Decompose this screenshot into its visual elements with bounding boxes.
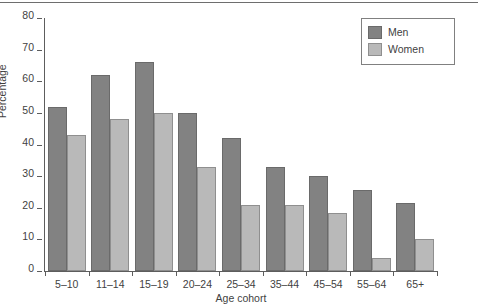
legend-item-women[interactable]: Women bbox=[368, 41, 448, 58]
x-tick-mark bbox=[437, 271, 438, 276]
y-tick-label: 10 bbox=[22, 231, 34, 242]
y-tick-mark bbox=[37, 208, 42, 209]
x-tick-label: 45–54 bbox=[306, 279, 350, 290]
y-tick-label: 0 bbox=[28, 263, 34, 274]
bar-men[interactable] bbox=[266, 167, 285, 271]
x-axis-title: Age cohort bbox=[45, 292, 437, 304]
y-tick-label: 60 bbox=[22, 73, 34, 84]
legend-swatch-women-icon bbox=[368, 43, 382, 56]
bar-group bbox=[48, 18, 86, 271]
y-tick-mark bbox=[37, 18, 42, 19]
y-tick-label: 20 bbox=[22, 200, 34, 211]
y-tick-mark bbox=[37, 81, 42, 82]
bar-women[interactable] bbox=[67, 135, 86, 271]
x-tick-mark bbox=[263, 271, 264, 276]
bar-group bbox=[266, 18, 304, 271]
bar-women[interactable] bbox=[241, 205, 260, 271]
y-tick-mark bbox=[37, 271, 42, 272]
x-tick-mark bbox=[350, 271, 351, 276]
bar-women[interactable] bbox=[415, 239, 434, 271]
y-axis-title: Percentage bbox=[0, 18, 8, 118]
bar-men[interactable] bbox=[178, 113, 197, 271]
x-tick-label: 15–19 bbox=[132, 279, 176, 290]
bar-men[interactable] bbox=[396, 203, 415, 271]
x-tick-mark bbox=[45, 271, 46, 276]
y-tick-label: 70 bbox=[22, 42, 34, 53]
x-tick-mark bbox=[393, 271, 394, 276]
x-tick-mark bbox=[219, 271, 220, 276]
x-tick-label: 35–44 bbox=[263, 279, 307, 290]
y-tick-label: 50 bbox=[22, 105, 34, 116]
bar-men[interactable] bbox=[222, 138, 241, 271]
bar-women[interactable] bbox=[154, 113, 173, 271]
bar-women[interactable] bbox=[110, 119, 129, 271]
x-axis-line bbox=[45, 271, 438, 272]
bar-women[interactable] bbox=[372, 258, 391, 271]
bar-men[interactable] bbox=[353, 190, 372, 271]
y-tick-label: 40 bbox=[22, 137, 34, 148]
bar-group bbox=[222, 18, 260, 271]
bar-men[interactable] bbox=[48, 107, 67, 271]
x-tick-label: 11–14 bbox=[89, 279, 133, 290]
x-tick-label: 20–24 bbox=[176, 279, 220, 290]
y-tick-mark bbox=[37, 239, 42, 240]
x-tick-label: 55–64 bbox=[350, 279, 394, 290]
legend-item-men[interactable]: Men bbox=[368, 24, 448, 41]
legend: Men Women bbox=[361, 18, 455, 65]
y-tick-label: 30 bbox=[22, 168, 34, 179]
legend-label-men: Men bbox=[388, 27, 408, 38]
bar-women[interactable] bbox=[328, 213, 347, 272]
bar-men[interactable] bbox=[309, 176, 328, 271]
bar-men[interactable] bbox=[91, 75, 110, 271]
y-tick-mark bbox=[37, 176, 42, 177]
y-tick-mark bbox=[37, 145, 42, 146]
bar-group bbox=[135, 18, 173, 271]
x-tick-mark bbox=[306, 271, 307, 276]
y-tick-label: 80 bbox=[22, 10, 34, 21]
bar-women[interactable] bbox=[197, 167, 216, 271]
bar-group bbox=[178, 18, 216, 271]
top-divider bbox=[0, 2, 478, 3]
bar-men[interactable] bbox=[135, 62, 154, 271]
y-tick-mark bbox=[37, 113, 42, 114]
x-tick-label: 25–34 bbox=[219, 279, 263, 290]
legend-swatch-men-icon bbox=[368, 26, 382, 39]
x-tick-label: 5–10 bbox=[45, 279, 89, 290]
x-tick-mark bbox=[132, 271, 133, 276]
bar-group bbox=[91, 18, 129, 271]
x-tick-label: 65+ bbox=[393, 279, 437, 290]
x-tick-mark bbox=[89, 271, 90, 276]
bar-chart-figure: 01020304050607080 Percentage 5–1011–1415… bbox=[0, 0, 478, 306]
bar-women[interactable] bbox=[285, 205, 304, 271]
y-tick-mark bbox=[37, 50, 42, 51]
x-tick-mark bbox=[176, 271, 177, 276]
bar-group bbox=[309, 18, 347, 271]
legend-label-women: Women bbox=[388, 44, 424, 55]
